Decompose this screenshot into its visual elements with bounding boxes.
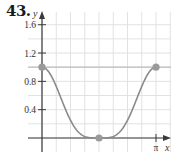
- x-axis-label: x: [164, 142, 170, 153]
- x-tick-label-pi: π: [154, 143, 159, 153]
- y-axis-label: y: [32, 8, 38, 19]
- data-point: [38, 64, 45, 71]
- grid-lines: [28, 12, 171, 152]
- axis-tick-labels: 0.40.81.21.6πyx: [24, 8, 170, 153]
- function-plot: 0.40.81.21.6πyx: [0, 0, 171, 154]
- y-tick-label: 1.2: [24, 49, 36, 59]
- data-point: [152, 64, 159, 71]
- data-point: [95, 134, 102, 141]
- y-tick-label: 1.6: [24, 20, 36, 30]
- y-tick-label: 0.4: [24, 105, 36, 115]
- y-tick-label: 0.8: [24, 77, 36, 87]
- y-axis-arrow-icon: [39, 11, 45, 19]
